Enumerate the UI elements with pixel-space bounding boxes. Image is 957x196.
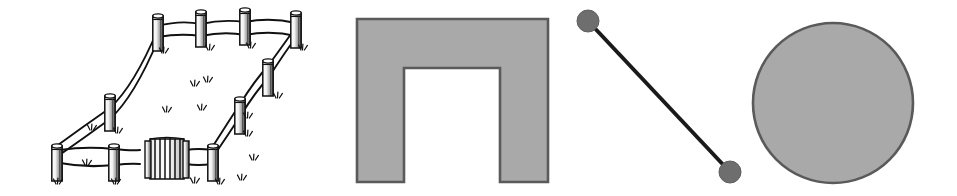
corner-post-front-left: [52, 144, 62, 181]
post-right-rail-1: [235, 97, 245, 134]
rail-back-bottom: [158, 33, 296, 37]
circle-outline: [753, 23, 913, 183]
rail-front-bottom-left: [60, 163, 140, 166]
corner-post-front-right: [208, 144, 218, 181]
rail-back-top: [158, 20, 296, 26]
post-front-rail-1: [109, 144, 119, 181]
post-left-rail-1: [105, 94, 115, 131]
rail-front-top-left: [60, 148, 140, 151]
arch-outline-path: [357, 19, 548, 182]
post-back-row-2: [240, 8, 250, 45]
corner-post-back-right: [291, 11, 301, 48]
dumbbell-knob-bottom: [719, 161, 741, 183]
fence-svg: [0, 0, 330, 196]
dumbbell-bar-shape: [560, 0, 750, 196]
post-back-row-1: [196, 10, 206, 47]
arch-svg: [330, 0, 570, 196]
arch-doorway-shape: [330, 0, 570, 196]
dumbbell-knob-top: [577, 10, 599, 32]
fence-enclosure-drawing: [0, 0, 330, 196]
corner-post-back-left: [153, 14, 163, 51]
dumbbell-bar-line: [588, 21, 730, 172]
post-right-rail-2: [263, 59, 273, 96]
filled-circle-shape: [740, 0, 957, 196]
dumbbell-svg: [560, 0, 750, 196]
circle-svg: [740, 0, 957, 196]
fence-gate: [145, 138, 189, 180]
image-canvas: [0, 0, 957, 196]
rail-right-bottom: [213, 36, 297, 157]
